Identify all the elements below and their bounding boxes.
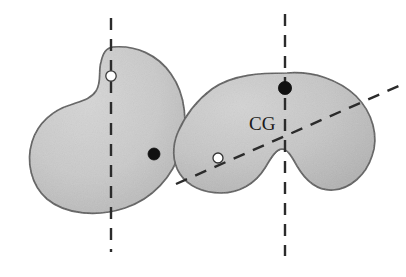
right-figure-group: CG	[174, 14, 401, 256]
suspension-point-marker	[278, 81, 291, 94]
center-of-gravity-marker	[148, 148, 160, 160]
suspension-point-marker	[106, 71, 116, 81]
diagram-svg: CG	[0, 0, 406, 277]
left-figure-group	[30, 18, 185, 252]
cg-label: CG	[249, 113, 276, 134]
secondary-point-marker	[213, 153, 223, 163]
figure-canvas: CG	[0, 0, 406, 277]
